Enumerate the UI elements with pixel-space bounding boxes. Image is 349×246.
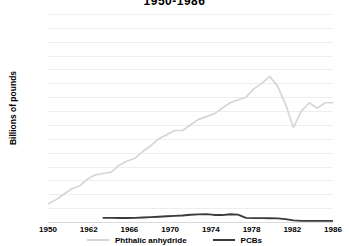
gridline bbox=[48, 222, 333, 223]
x-axis-tick: 1986 bbox=[313, 225, 349, 234]
legend-swatch bbox=[87, 239, 109, 241]
series-line-pcbs bbox=[103, 214, 333, 221]
chart-title: 1950-1986 bbox=[0, 0, 349, 8]
chart-legend: Phthalic anhydridePCBs bbox=[0, 234, 349, 246]
legend-entry: PCBs bbox=[213, 236, 262, 245]
chart-container: 1950-1986 Billions of pounds 1.51.41.31.… bbox=[0, 0, 349, 246]
x-axis-tick: 1962 bbox=[69, 225, 109, 234]
legend-swatch bbox=[213, 239, 235, 241]
series-line-phthalic-anhydride bbox=[48, 76, 333, 204]
x-axis-tick: 1970 bbox=[150, 225, 190, 234]
x-axis-tick: 1978 bbox=[232, 225, 272, 234]
plot-area bbox=[48, 14, 333, 222]
legend-label: Phthalic anhydride bbox=[115, 236, 187, 245]
y-axis-title: Billions of pounds bbox=[8, 48, 18, 168]
x-axis-tick: 1982 bbox=[272, 225, 312, 234]
series-lines bbox=[48, 14, 333, 222]
x-axis-tick: 1950 bbox=[28, 225, 68, 234]
legend-entry: Phthalic anhydride bbox=[87, 236, 187, 245]
x-axis-tick: 1974 bbox=[191, 225, 231, 234]
legend-label: PCBs bbox=[241, 236, 262, 245]
x-axis-tick: 1966 bbox=[109, 225, 149, 234]
